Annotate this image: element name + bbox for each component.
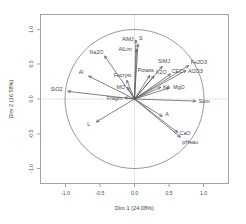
y-axis-ticks: 1.0 0.5 0.0 -0.5 -1.0 <box>28 26 41 173</box>
y-tick-label: 0.5 <box>28 60 34 67</box>
variable-vector: MgO <box>135 84 185 99</box>
pca-plot-svg: -1.0 -0.5 0.0 0.5 1.0 1.0 0.5 0.0 -0.5 -… <box>0 0 246 224</box>
variable-label-al2o3: Al2O3 <box>188 68 203 74</box>
x-tick-label: -0.5 <box>96 190 105 196</box>
y-axis-title: Dim 2 (16.58%) <box>8 79 14 118</box>
variable-vector: Sum <box>135 98 211 104</box>
y-tick-label: 1.0 <box>28 26 34 33</box>
variable-label-cao: CaO <box>180 130 191 136</box>
vector-arrow-pheau <box>135 99 181 137</box>
vector-arrow-l <box>96 99 134 122</box>
variable-label-fragm: Fragm <box>107 95 123 101</box>
variable-label-fe2o3: Fe2O3 <box>191 59 207 65</box>
x-tick-label: -1.0 <box>61 190 70 196</box>
y-tick-label: -0.5 <box>28 129 34 138</box>
x-tick-label: 1.0 <box>200 190 207 196</box>
variable-label-simj: SiMJ <box>158 58 170 64</box>
x-axis-title: Dim 1 (24.08%) <box>115 205 154 211</box>
variable-label-al: Al <box>79 69 84 75</box>
variable-vector: Kd <box>135 84 170 99</box>
variable-label-mgo: MgO <box>173 84 184 90</box>
variable-label-s: S <box>139 35 143 41</box>
variable-label-a: A <box>165 111 169 117</box>
x-tick-label: 0.0 <box>131 190 138 196</box>
variable-label-potass: Potass <box>138 67 155 73</box>
variable-label-mo: MO <box>117 84 126 90</box>
variable-label-l: L <box>87 121 90 127</box>
variable-vectors: AlMJAlLimSNa2OAlSiO2FecrystMOFragmPotass… <box>51 35 210 145</box>
variable-label-sum: Sum <box>199 98 210 104</box>
variable-vector: L <box>87 99 134 127</box>
variable-label-allim: AlLim <box>119 46 133 52</box>
y-tick-label: -1.0 <box>28 164 34 173</box>
variable-label-pheau: pHeau <box>182 139 198 145</box>
variable-label-sio2: SiO2 <box>51 86 63 92</box>
variable-vector: A <box>135 99 170 117</box>
variable-label-na2o: Na2O <box>90 49 104 55</box>
pca-variable-factor-map: -1.0 -0.5 0.0 0.5 1.0 1.0 0.5 0.0 -0.5 -… <box>0 0 246 224</box>
vector-arrow-a <box>135 99 163 116</box>
variable-label-fecryst: Fecryst <box>114 72 132 78</box>
x-axis-ticks: -1.0 -0.5 0.0 0.5 1.0 <box>61 184 207 197</box>
variable-label-almj: AlMJ <box>122 36 134 42</box>
x-tick-label: 0.5 <box>165 190 172 196</box>
y-tick-label: 0.0 <box>28 95 34 102</box>
variable-vector: Fragm <box>107 95 135 101</box>
